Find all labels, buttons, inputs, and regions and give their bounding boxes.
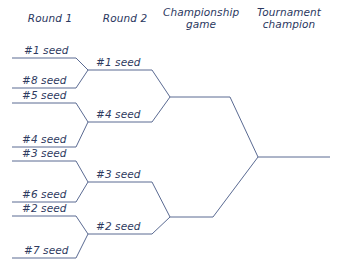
round1-seed-2: #2 seed xyxy=(22,202,67,214)
connector-r1-m2-bottom xyxy=(76,122,88,147)
header-championship-game-line2: game xyxy=(163,18,239,30)
connector-r1-m3-top xyxy=(76,161,88,182)
round1-seed-3: #3 seed xyxy=(22,147,67,159)
round2-seed-1: #1 seed xyxy=(96,56,141,68)
header-tournament-champion-line1: Tournament xyxy=(250,6,328,18)
round1-seed-8: #8 seed xyxy=(22,74,67,86)
round1-seed-7: #7 seed xyxy=(24,244,69,256)
round1-seed-1: #1 seed xyxy=(24,44,69,56)
round1-seed-4: #4 seed xyxy=(22,133,67,145)
header-round-2: Round 2 xyxy=(93,12,157,24)
connector-r2-top-upper xyxy=(152,70,170,97)
connector-r1-m1-bottom xyxy=(76,70,88,88)
header-championship-game-line1: Championship xyxy=(163,6,239,18)
round1-seed-6: #6 seed xyxy=(22,188,67,200)
connector-final-lower xyxy=(213,157,258,217)
tournament-bracket-diagram: Round 1 Round 2 Championship game Tourna… xyxy=(0,0,337,273)
header-round-1: Round 1 xyxy=(18,12,82,24)
connector-r1-m1-top xyxy=(76,58,88,70)
round2-seed-3: #3 seed xyxy=(96,168,141,180)
connector-r1-m2-top xyxy=(76,103,88,122)
connector-r1-m4-bottom xyxy=(76,234,88,258)
connector-r2-top-lower xyxy=(152,97,170,122)
header-championship-game: Championship game xyxy=(163,6,239,30)
header-tournament-champion-line2: champion xyxy=(250,18,328,30)
connector-r2-bot-lower xyxy=(152,217,170,234)
connector-final-upper xyxy=(230,97,258,157)
round1-seed-5: #5 seed xyxy=(22,89,67,101)
header-tournament-champion: Tournament champion xyxy=(250,6,328,30)
connector-r2-bot-upper xyxy=(152,182,170,217)
round2-seed-2: #2 seed xyxy=(96,220,141,232)
connector-r1-m3-bottom xyxy=(76,182,88,202)
round2-seed-4: #4 seed xyxy=(96,108,141,120)
connector-r1-m4-top xyxy=(76,216,88,234)
